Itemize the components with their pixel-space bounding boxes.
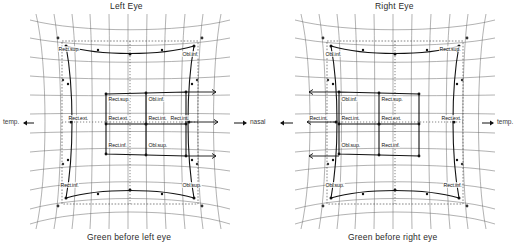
right-outer-label-bottom-left: Obl.sup. (325, 182, 345, 188)
nasal-label: nasal (250, 118, 266, 125)
left-outer-label-top-left: Rect.sup. (58, 46, 80, 52)
left-inner-label-mid-right: Rect.int. (148, 115, 167, 121)
left-eye-title: Left Eye (110, 1, 143, 11)
right-inner-label-mid-right: Rect.ext. (381, 115, 402, 121)
right-eye-title: Right Eye (375, 1, 414, 11)
right-outer-label-mid-right: Rect.ext. (441, 115, 462, 121)
right-outer-label-top-right: Rect.sup. (439, 46, 461, 52)
right-eye-grid-svg (295, 14, 495, 229)
left-inner-label-mid-left: Rect.ext. (108, 115, 129, 121)
nasal-arrow-left-icon (234, 119, 248, 127)
left-inner-label-bottom-right: Obl.sup. (148, 142, 168, 148)
left-outer-label-top-right: Obl.inf. (182, 51, 199, 57)
left-outer-label-mid-right: Rect.int. (170, 115, 189, 121)
right-eye-caption: Green before right eye (348, 232, 437, 242)
left-eye-chart: Rect.sup. Obl.inf. Rect.inf. Obl.sup. Re… (30, 14, 230, 229)
right-inner-label-top-left: Obl.inf. (341, 96, 358, 102)
left-outer-label-bottom-right: Obl.sup. (182, 182, 202, 188)
right-outer-label-mid-left: Rect.int. (309, 115, 328, 121)
right-outer-label-top-left: Obl.inf. (325, 51, 342, 57)
nasal-arrow-right-icon (279, 119, 293, 127)
left-inner-label-bottom-left: Rect.inf. (108, 142, 127, 148)
right-outer-label-bottom-right: Rect.inf. (443, 182, 462, 188)
left-eye-caption: Green before left eye (87, 232, 171, 242)
right-inner-label-bottom-right: Rect.inf. (381, 142, 400, 148)
right-inner-label-top-right: Rect.sup. (381, 96, 403, 102)
right-eye-chart: Obl.inf. Rect.sup. Obl.sup. Rect.inf. Re… (295, 14, 495, 229)
temporal-label-left: temp. (3, 118, 19, 125)
right-inner-label-bottom-left: Obl.sup. (341, 142, 361, 148)
temporal-arrow-left-icon (22, 119, 34, 127)
temporal-label-right: temp. (497, 118, 513, 125)
temporal-arrow-right-icon (482, 119, 495, 127)
left-inner-label-top-right: Obl.inf. (148, 96, 165, 102)
left-outer-label-bottom-left: Rect.inf. (60, 182, 79, 188)
right-inner-label-mid-left: Rect.int. (341, 115, 360, 121)
left-outer-label-mid-left: Rect.ext. (68, 115, 89, 121)
figure-canvas: Left Eye Right Eye (0, 0, 517, 250)
left-inner-label-top-left: Rect.sup. (108, 96, 130, 102)
